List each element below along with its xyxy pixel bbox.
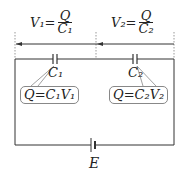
battery-label: E (89, 155, 99, 171)
voltage-label-v1: V₁= QC₁ (30, 10, 73, 35)
arrow-head-middle (97, 42, 103, 46)
capacitor-c2-label: C₂ (128, 65, 143, 80)
formula-box-c1: Q=C₁V₁ (20, 86, 79, 104)
v2-lhs: V₂= (111, 15, 137, 30)
v1-denominator: C₁ (58, 23, 73, 35)
arrow-head-left (16, 42, 22, 46)
formula-box-c2: Q=C₂V₂ (109, 86, 168, 104)
v1-lhs: V₁= (30, 15, 56, 30)
voltage-label-v2: V₂= QC₂ (111, 10, 154, 35)
capacitor-c1-label: C₁ (48, 65, 63, 80)
v2-denominator: C₂ (139, 23, 154, 35)
